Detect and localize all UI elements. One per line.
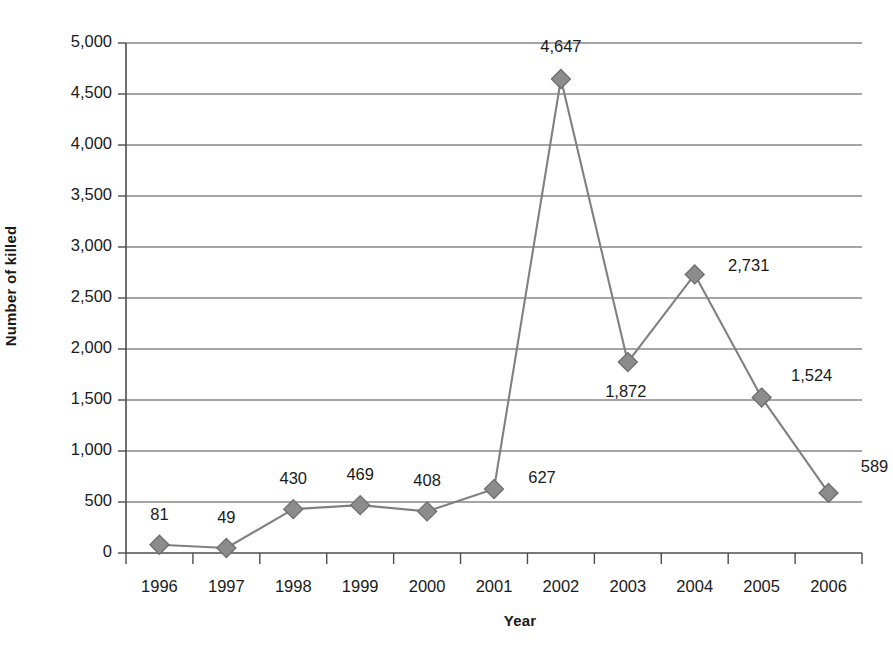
line-chart-plot <box>0 0 893 652</box>
y-axis-tick-label: 5,000 <box>0 32 112 51</box>
data-point-marker <box>150 535 169 554</box>
data-point-marker <box>752 388 771 407</box>
y-axis-tick-label: 4,500 <box>0 83 112 102</box>
y-axis-tick-label: 1,500 <box>0 389 112 408</box>
y-axis-tick-label: 1,000 <box>0 440 112 459</box>
data-point-label: 627 <box>497 468 587 487</box>
data-point-label: 408 <box>382 471 472 490</box>
y-axis-tick-label: 2,000 <box>0 338 112 357</box>
data-point-marker <box>618 353 637 372</box>
x-axis-tick-label: 2006 <box>795 577 862 596</box>
data-point-marker <box>418 502 437 521</box>
x-axis-tick-label: 2002 <box>527 577 594 596</box>
y-axis-tick-label: 2,500 <box>0 287 112 306</box>
data-point-marker <box>685 265 704 284</box>
data-point-label: 49 <box>181 508 271 527</box>
data-point-marker <box>351 496 370 515</box>
x-axis-tick-label: 1997 <box>193 577 260 596</box>
data-point-label: 589 <box>830 457 893 476</box>
y-axis-tick-label: 4,000 <box>0 134 112 153</box>
x-axis-tick-label: 1996 <box>126 577 193 596</box>
y-axis-tick-label: 3,000 <box>0 236 112 255</box>
x-axis-tick-label: 1999 <box>327 577 394 596</box>
x-axis-tick-label: 2000 <box>394 577 461 596</box>
y-axis-tick-label: 0 <box>0 542 112 561</box>
x-axis-tick-label: 2001 <box>461 577 528 596</box>
data-point-label: 1,872 <box>581 382 671 401</box>
y-axis-title: Number of killed <box>2 176 19 396</box>
x-axis-tick-label: 1998 <box>260 577 327 596</box>
data-point-marker <box>819 483 838 502</box>
x-axis-tick-label: 2005 <box>728 577 795 596</box>
x-axis-tick-label: 2004 <box>661 577 728 596</box>
data-point-label: 4,647 <box>516 37 606 56</box>
data-point-marker <box>551 70 570 89</box>
x-axis-tick-label: 2003 <box>594 577 661 596</box>
y-axis-tick-label: 500 <box>0 491 112 510</box>
chart-container: Number of killed Year 05001,0001,5002,00… <box>0 0 893 652</box>
data-point-label: 1,524 <box>767 366 857 385</box>
data-point-marker <box>217 539 236 558</box>
gridlines <box>126 43 862 553</box>
y-axis-tick-label: 3,500 <box>0 185 112 204</box>
data-point-label: 2,731 <box>704 256 794 275</box>
x-axis-title: Year <box>420 612 620 629</box>
